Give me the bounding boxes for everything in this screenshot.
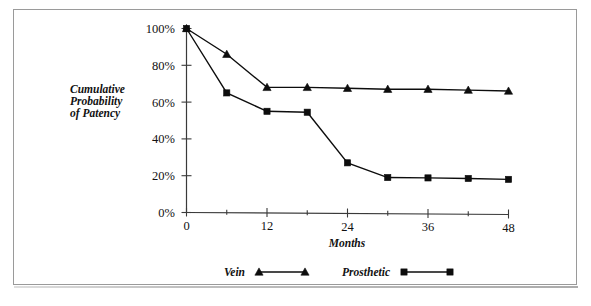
legend-marker-start-prosthetic <box>401 269 407 275</box>
x-tick-label-48: 48 <box>502 221 515 235</box>
x-axis-title: Months <box>328 237 366 249</box>
data-point-prosthetic-m18 <box>304 109 310 115</box>
series-line-vein <box>187 29 509 92</box>
data-point-prosthetic-m42 <box>465 175 471 181</box>
series-layer <box>182 24 512 182</box>
series-line-prosthetic <box>187 29 509 180</box>
x-tick-label-36: 36 <box>422 220 435 234</box>
y-tick-label-0%: 0% <box>158 206 175 220</box>
series-prosthetic <box>183 25 511 182</box>
y-tick-label-100%: 100% <box>146 22 175 36</box>
x-tick-label-24: 24 <box>341 220 354 234</box>
series-vein <box>182 24 512 94</box>
legend-entry-prosthetic: Prosthetic <box>342 266 453 278</box>
scanned-chart-page: Cumulative Probability of Patency 0%20%4… <box>0 0 591 306</box>
data-point-prosthetic-m36 <box>425 175 431 181</box>
y-axis-title-line-1: Cumulative <box>70 83 125 95</box>
data-point-prosthetic-m0 <box>183 25 189 31</box>
y-axis-title: Cumulative Probability of Patency <box>70 83 125 120</box>
y-tick-label-20%: 20% <box>152 169 175 183</box>
legend-label-vein: Vein <box>224 266 245 278</box>
data-point-prosthetic-m30 <box>385 174 391 180</box>
y-axis-tick-labels: 0%20%40%60%80%100% <box>146 22 175 220</box>
data-point-prosthetic-m24 <box>344 160 350 166</box>
y-tick-label-40%: 40% <box>152 132 175 146</box>
x-axis-tick-labels: 012243648 <box>183 219 514 235</box>
x-tick-label-0: 0 <box>183 219 189 233</box>
legend-entry-vein: Vein <box>224 266 309 278</box>
data-point-prosthetic-m48 <box>505 176 511 182</box>
data-point-prosthetic-m12 <box>264 108 270 114</box>
chart-legend: VeinProsthetic <box>224 266 453 278</box>
y-tick-label-80%: 80% <box>152 59 175 73</box>
data-point-prosthetic-m6 <box>224 90 230 96</box>
patency-chart: Cumulative Probability of Patency 0%20%4… <box>0 0 591 306</box>
y-tick-label-60%: 60% <box>152 96 175 110</box>
axes <box>187 29 509 215</box>
data-point-vein-m6 <box>223 50 231 57</box>
legend-label-prosthetic: Prosthetic <box>342 266 390 278</box>
legend-marker-end-prosthetic <box>447 269 453 275</box>
y-axis-title-line-3: of Patency <box>70 107 121 120</box>
x-tick-label-12: 12 <box>261 219 274 233</box>
